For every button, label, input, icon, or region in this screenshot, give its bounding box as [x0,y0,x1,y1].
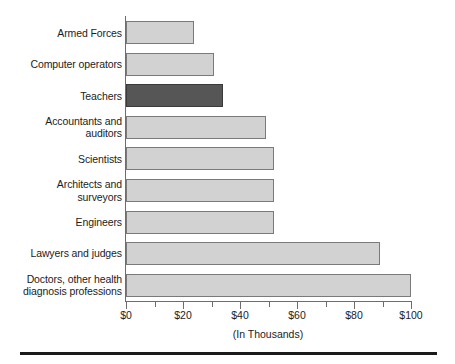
bar-category-label: Scientists [78,153,122,166]
x-tick-major [411,302,412,309]
x-tick-minor [155,302,156,307]
bar-category-label: Engineers [76,216,122,229]
x-tick-major [183,302,184,309]
bar-row: Computer operators [0,49,455,81]
bar-category-label: Lawyers and judges [30,247,122,260]
bar-category-label: Computer operators [30,58,122,71]
bar-highlighted[interactable] [126,84,223,107]
bar-row: Lawyers and judges [0,238,455,270]
x-tick-label: $20 [174,309,192,321]
x-tick-major [297,302,298,309]
x-tick-minor [326,302,327,307]
x-tick-major [126,302,127,309]
bar[interactable] [126,274,411,297]
bar-row: Architects and surveyors [0,175,455,207]
bar[interactable] [126,179,274,202]
bar-row: Scientists [0,143,455,175]
bar[interactable] [126,242,380,265]
x-tick-label: $0 [120,309,132,321]
bar[interactable] [126,53,214,76]
bar[interactable] [126,21,194,44]
bar-category-label: Teachers [80,90,122,103]
x-axis-title: (In Thousands) [233,328,303,340]
bar-row: Doctors, other health diagnosis professi… [0,269,455,301]
bar-row: Armed Forces [0,17,455,49]
bar[interactable] [126,211,274,234]
x-tick-label: $100 [399,309,422,321]
bottom-rule [20,352,437,355]
x-tick-major [354,302,355,309]
x-tick-label: $60 [288,309,306,321]
bar-row: Teachers [0,80,455,112]
x-tick-major [240,302,241,309]
bar-category-label: Doctors, other health diagnosis professi… [23,273,122,298]
bar-row: Engineers [0,206,455,238]
bar[interactable] [126,147,274,170]
bar-category-label: Accountants and auditors [45,115,122,140]
x-tick-minor [212,302,213,307]
horizontal-bar-chart: Armed ForcesComputer operatorsTeachersAc… [0,0,455,364]
x-tick-label: $80 [345,309,363,321]
bar-category-label: Architects and surveyors [57,178,122,203]
bar-category-label: Armed Forces [57,27,122,40]
bar[interactable] [126,116,266,139]
x-tick-minor [269,302,270,307]
chart-page: Armed ForcesComputer operatorsTeachersAc… [0,0,455,364]
bar-row: Accountants and auditors [0,112,455,144]
x-tick-minor [383,302,384,307]
x-tick-label: $40 [231,309,249,321]
